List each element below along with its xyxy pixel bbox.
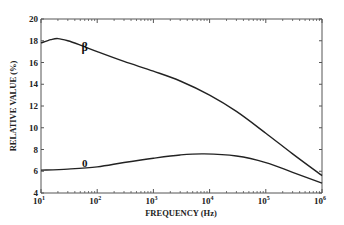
x-tick-exponent: 2	[98, 195, 101, 201]
y-tick-label: 12	[29, 101, 39, 111]
y-axis-ticks: 468101214161820	[29, 14, 322, 198]
chart: 468101214161820 101102103104105106 β0 FR…	[0, 0, 344, 225]
x-tick-label: 101	[33, 195, 45, 206]
y-tick-label: 10	[29, 123, 39, 133]
x-axis-title: FREQUENCY (Hz)	[145, 208, 217, 218]
y-tick-label: 8	[34, 145, 39, 155]
y-tick-label: 14	[29, 79, 39, 89]
y-axis-title: RELATIVE VALUE (%)	[8, 60, 18, 151]
y-tick-label: 20	[29, 14, 39, 24]
x-tick-exponent: 5	[267, 195, 270, 201]
x-tick-label: 103	[145, 195, 157, 206]
x-tick-exponent: 6	[323, 195, 326, 201]
x-tick-exponent: 4	[211, 195, 214, 201]
x-tick-label: 106	[314, 195, 326, 206]
series-label-beta: β	[82, 40, 88, 54]
y-tick-label: 18	[29, 36, 39, 46]
series-label-zero: 0	[82, 157, 88, 169]
y-tick-label: 6	[34, 166, 39, 176]
x-tick-label: 105	[258, 195, 270, 206]
x-tick-label: 102	[89, 195, 101, 206]
x-tick-exponent: 3	[154, 195, 157, 201]
y-tick-label: 16	[29, 58, 39, 68]
x-tick-label: 104	[202, 195, 214, 206]
x-axis-ticks: 101102103104105106	[33, 19, 326, 206]
x-tick-exponent: 1	[42, 195, 45, 201]
series-labels: β0	[82, 40, 88, 169]
